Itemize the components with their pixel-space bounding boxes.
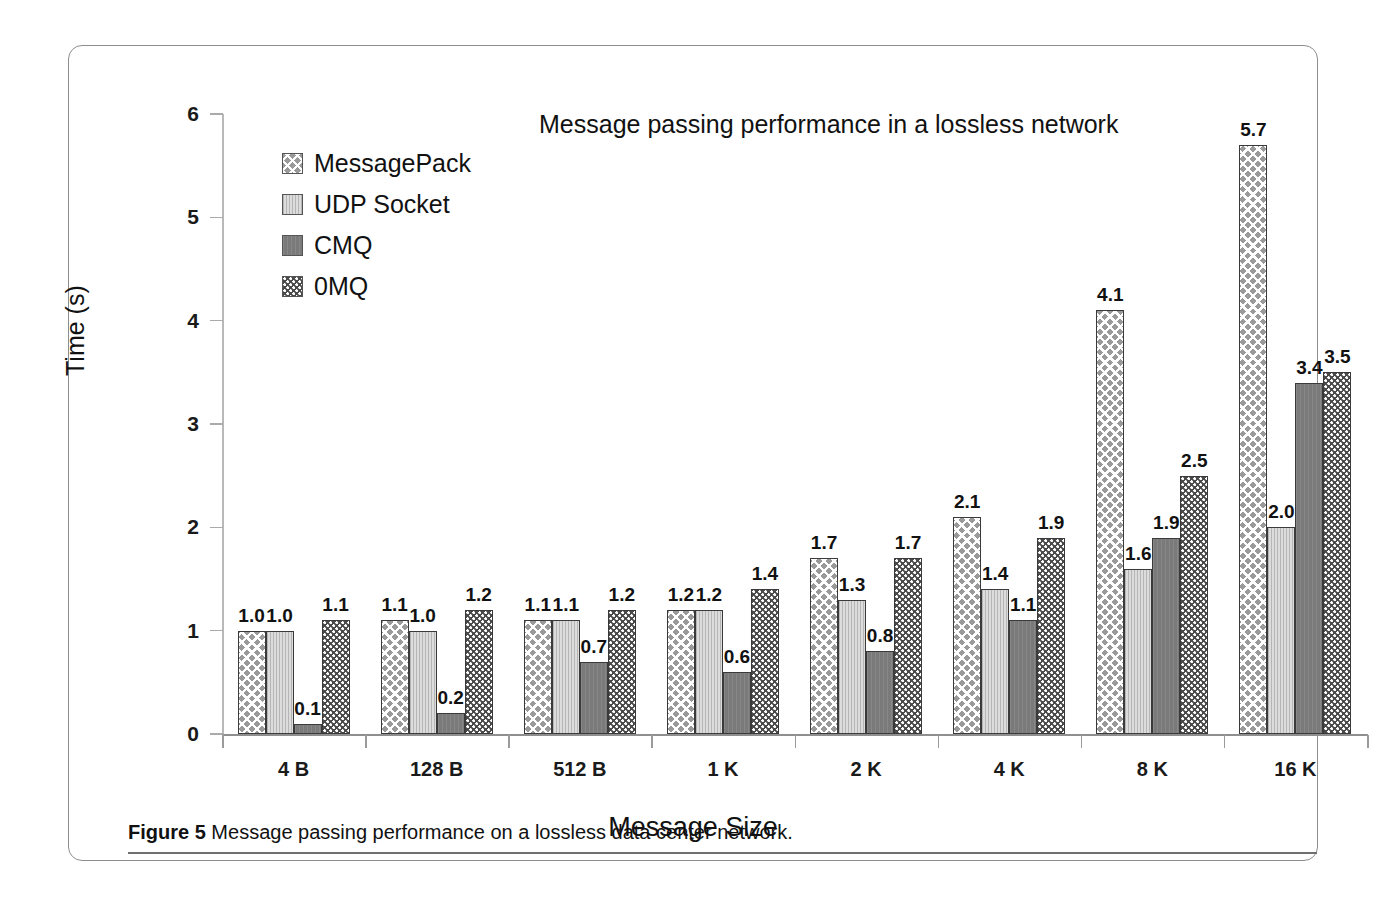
bar-value-label: 3.4 (1296, 357, 1322, 379)
bar-value-label: 2.5 (1181, 450, 1207, 472)
bar-0mq-1-k (751, 589, 779, 734)
x-axis-tick (795, 735, 797, 748)
bar-cmq-2-k (866, 651, 894, 734)
bar-0mq-128-b (465, 610, 493, 734)
bar-value-label: 0.6 (724, 646, 750, 668)
bar-value-label: 0.8 (867, 625, 893, 647)
y-axis-tick (210, 217, 223, 219)
bar-0mq-4-k (1037, 538, 1065, 734)
bar-cmq-16-k (1295, 383, 1323, 734)
bar-value-label: 5.7 (1240, 119, 1266, 141)
bar-udp-socket-4-b (266, 631, 294, 734)
bar-value-label: 1.9 (1038, 512, 1064, 534)
bar-value-label: 2.0 (1268, 501, 1294, 523)
bar-cmq-4-k (1009, 620, 1037, 734)
bar-value-label: 1.2 (696, 584, 722, 606)
bar-value-label: 3.5 (1324, 346, 1350, 368)
x-axis-tick-label: 512 B (553, 758, 606, 781)
bar-cmq-8-k (1152, 538, 1180, 734)
bar-value-label: 1.0 (238, 605, 264, 627)
bar-messagepack-512-b (524, 620, 552, 734)
bar-cmq-4-b (294, 724, 322, 734)
x-axis-tick (1081, 735, 1083, 748)
y-axis-tick (210, 320, 223, 322)
x-axis-tick (1224, 735, 1226, 748)
x-axis-tick-label: 128 B (410, 758, 463, 781)
y-axis-tick (210, 630, 223, 632)
y-axis-tick-label: 5 (153, 205, 199, 229)
bar-udp-socket-128-b (409, 631, 437, 734)
bar-value-label: 1.6 (1125, 543, 1151, 565)
figure-caption: Figure 5 Message passing performance on … (128, 821, 793, 844)
bar-messagepack-4-b (238, 631, 266, 734)
bar-value-label: 1.1 (322, 594, 348, 616)
x-axis-tick-label: 8 K (1137, 758, 1168, 781)
bar-value-label: 1.4 (752, 563, 778, 585)
figure-frame: Message passing performance in a lossles… (68, 45, 1318, 861)
bar-value-label: 1.0 (409, 605, 435, 627)
x-axis-tick-label: 4 K (994, 758, 1025, 781)
caption-prefix: Figure 5 (128, 821, 206, 843)
bar-messagepack-1-k (667, 610, 695, 734)
bar-0mq-4-b (322, 620, 350, 734)
y-axis-tick-label: 4 (153, 309, 199, 333)
bar-value-label: 0.7 (581, 636, 607, 658)
bar-udp-socket-4-k (981, 589, 1009, 734)
bar-0mq-16-k (1323, 372, 1351, 734)
bar-value-label: 1.2 (609, 584, 635, 606)
x-axis-tick (651, 735, 653, 748)
y-axis-tick-label: 1 (153, 619, 199, 643)
bar-0mq-2-k (894, 558, 922, 734)
caption-rule (128, 852, 1317, 854)
bar-value-label: 1.7 (895, 532, 921, 554)
bar-value-label: 1.2 (668, 584, 694, 606)
bar-value-label: 1.1 (525, 594, 551, 616)
plot-area (222, 114, 1367, 734)
bar-messagepack-4-k (953, 517, 981, 734)
bar-udp-socket-2-k (838, 600, 866, 734)
bar-value-label: 0.1 (294, 698, 320, 720)
bar-0mq-512-b (608, 610, 636, 734)
bar-value-label: 1.1 (381, 594, 407, 616)
x-axis-tick-label: 4 B (278, 758, 309, 781)
x-axis-tick-label: 1 K (707, 758, 738, 781)
bar-messagepack-128-b (381, 620, 409, 734)
y-axis-tick-label: 2 (153, 515, 199, 539)
bar-value-label: 1.7 (811, 532, 837, 554)
bar-udp-socket-8-k (1124, 569, 1152, 734)
x-axis-tick-label: 16 K (1274, 758, 1316, 781)
x-axis-tick (1367, 735, 1369, 748)
bar-udp-socket-512-b (552, 620, 580, 734)
bar-cmq-512-b (580, 662, 608, 734)
bar-udp-socket-1-k (695, 610, 723, 734)
y-axis-tick (210, 113, 223, 115)
bar-value-label: 4.1 (1097, 284, 1123, 306)
bar-cmq-128-b (437, 713, 465, 734)
y-axis-tick-label: 3 (153, 412, 199, 436)
x-axis-tick (222, 735, 224, 748)
x-axis-tick-label: 2 K (851, 758, 882, 781)
y-axis-tick (210, 527, 223, 529)
bar-cmq-1-k (723, 672, 751, 734)
bar-value-label: 1.1 (553, 594, 579, 616)
bar-value-label: 1.1 (1010, 594, 1036, 616)
figure-page: Message passing performance in a lossles… (0, 0, 1385, 904)
bar-value-label: 1.9 (1153, 512, 1179, 534)
y-axis-tick-label: 6 (153, 102, 199, 126)
bar-value-label: 0.2 (437, 687, 463, 709)
y-axis-tick (210, 423, 223, 425)
bar-value-label: 2.1 (954, 491, 980, 513)
x-axis-tick (508, 735, 510, 748)
bar-messagepack-8-k (1096, 310, 1124, 734)
y-axis-title: Time (s) (61, 285, 90, 376)
bar-value-label: 1.2 (465, 584, 491, 606)
caption-text: Message passing performance on a lossles… (211, 821, 792, 843)
bar-messagepack-2-k (810, 558, 838, 734)
x-axis-tick (938, 735, 940, 748)
bar-messagepack-16-k (1239, 145, 1267, 734)
y-axis-tick-label: 0 (153, 722, 199, 746)
x-axis-tick (365, 735, 367, 748)
bar-udp-socket-16-k (1267, 527, 1295, 734)
bar-value-label: 1.4 (982, 563, 1008, 585)
bar-value-label: 1.0 (266, 605, 292, 627)
